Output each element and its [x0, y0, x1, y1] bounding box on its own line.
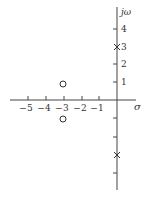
- x-ticks: [28, 96, 99, 100]
- y-tick-label: 4: [121, 24, 127, 34]
- x-tick-label: −1: [90, 103, 103, 113]
- x-tick-label: −5: [19, 103, 33, 113]
- y-tick-label: 3: [121, 42, 127, 52]
- y-ticks: [113, 29, 117, 173]
- x-tick-label: −4: [37, 103, 51, 113]
- zero-marker: [60, 81, 66, 87]
- y-axis-label: jω: [119, 7, 132, 17]
- x-tick-labels: −5 −4 −3 −2 −1: [19, 103, 103, 113]
- pole-zero-plot: −5 −4 −3 −2 −1 4 3 2 1 jω σ: [0, 0, 150, 197]
- zero-marker: [60, 116, 66, 122]
- x-axis-label: σ: [134, 101, 142, 112]
- x-tick-label: −2: [73, 103, 86, 113]
- y-tick-labels: 4 3 2 1: [121, 24, 127, 87]
- x-tick-label: −3: [55, 103, 69, 113]
- y-tick-label: 1: [121, 77, 127, 87]
- y-tick-label: 2: [121, 59, 127, 69]
